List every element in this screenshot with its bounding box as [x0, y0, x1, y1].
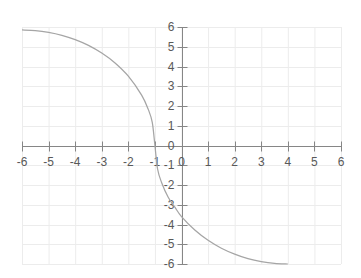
- y-tick-label: -2: [164, 178, 175, 192]
- y-tick-label: -4: [164, 218, 175, 232]
- x-tick-label: -6: [17, 155, 28, 169]
- y-tick-label: 0: [168, 139, 175, 153]
- y-tick-label: -5: [164, 237, 175, 251]
- x-tick-label: 2: [231, 155, 238, 169]
- x-tick-label: -5: [43, 155, 54, 169]
- x-tick-label: -2: [123, 155, 134, 169]
- x-tick-label: 6: [338, 155, 345, 169]
- y-tick-label: 1: [168, 119, 175, 133]
- x-tick-label: 1: [205, 155, 212, 169]
- y-tick-label: 4: [168, 60, 175, 74]
- x-tick-label: -4: [70, 155, 81, 169]
- x-tick-label: -3: [96, 155, 107, 169]
- y-tick-label: 5: [168, 40, 175, 54]
- y-axis-tick-labels: -6-5-4-3-2-10123456: [164, 20, 175, 271]
- x-tick-label: -1: [150, 155, 161, 169]
- x-tick-label: 5: [311, 155, 318, 169]
- x-axis-tick-labels: -6-5-4-3-2-10123456: [17, 155, 345, 169]
- x-tick-label: 3: [258, 155, 265, 169]
- y-tick-label: 2: [168, 99, 175, 113]
- y-tick-label: -6: [164, 257, 175, 271]
- y-tick-label: -1: [164, 158, 175, 172]
- x-tick-label: 4: [284, 155, 291, 169]
- x-tick-label: 0: [178, 155, 185, 169]
- gridlines: [22, 27, 342, 265]
- y-tick-label: 6: [168, 20, 175, 34]
- chart: -6-5-4-3-2-10123456 -6-5-4-3-2-10123456: [0, 0, 361, 278]
- y-tick-label: 3: [168, 79, 175, 93]
